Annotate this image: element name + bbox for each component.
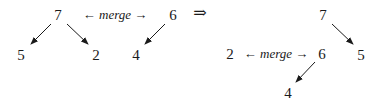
merge-label-before: ← merge →: [83, 8, 148, 21]
left-arrow-icon: ←: [244, 46, 257, 61]
edge-7-5-before: [31, 24, 51, 44]
edge-7-2-before: [67, 24, 88, 44]
merge-word: merge: [260, 46, 292, 61]
node-after-subtree-root: 6: [318, 47, 326, 62]
node-after-left: 2: [226, 47, 234, 62]
merge-label-after: ← merge →: [244, 47, 309, 60]
implies-arrow-icon: ⇒: [193, 5, 206, 21]
node-after-subtree-child: 4: [284, 86, 292, 101]
node-after-root: 7: [319, 8, 327, 23]
node-before-left-child-2: 2: [92, 48, 100, 63]
edge-7-5-after: [332, 24, 353, 44]
edge-6-4-before: [145, 24, 165, 44]
edge-6-4-after: [296, 62, 315, 82]
merge-word: merge: [99, 7, 131, 22]
node-before-right-root: 6: [169, 8, 177, 23]
right-arrow-icon: →: [295, 46, 308, 61]
right-arrow-icon: →: [134, 7, 147, 22]
node-before-left-root: 7: [54, 8, 62, 23]
node-after-root-child: 5: [357, 48, 365, 63]
left-arrow-icon: ←: [83, 7, 96, 22]
node-before-right-child: 4: [132, 48, 140, 63]
node-before-left-child-1: 5: [17, 48, 25, 63]
